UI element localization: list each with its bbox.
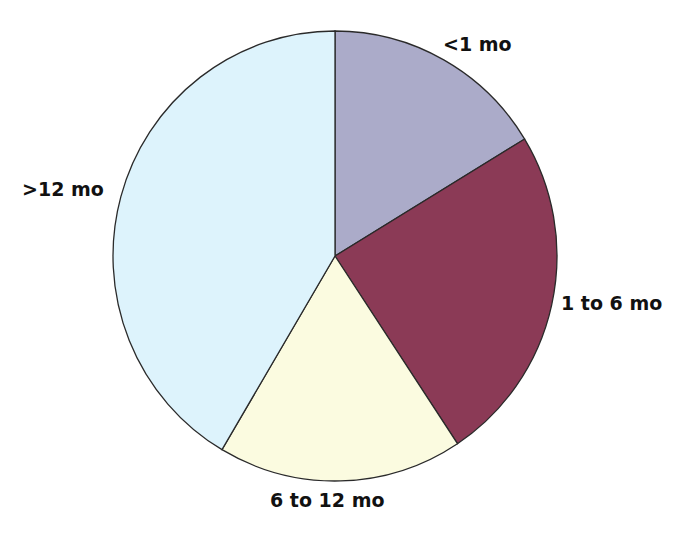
label-lt1mo: <1 mo bbox=[443, 33, 512, 55]
pie-chart bbox=[0, 0, 682, 533]
label-gt12mo: >12 mo bbox=[22, 178, 104, 200]
label-1to6mo: 1 to 6 mo bbox=[561, 292, 662, 314]
label-6to12mo: 6 to 12 mo bbox=[270, 489, 385, 511]
pie-slices bbox=[113, 31, 557, 481]
